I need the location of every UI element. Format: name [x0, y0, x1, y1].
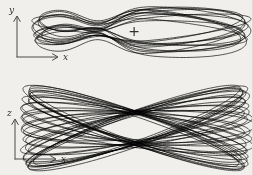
center-cross-marker: + — [128, 23, 140, 39]
bottom-z-axis-label: z — [6, 108, 12, 118]
figure-canvas: y x + z x — [0, 0, 252, 175]
orbit-projections-svg: y x + z x — [0, 0, 252, 175]
bottom-view-orbit-curve — [21, 85, 253, 171]
bottom-view: z x — [6, 85, 252, 171]
top-x-axis-label: x — [63, 52, 68, 62]
top-view-orbit-curve — [32, 7, 251, 58]
top-view: y x + — [8, 5, 251, 62]
top-view-axes: y x — [8, 5, 68, 62]
top-y-axis-label: y — [8, 5, 15, 15]
